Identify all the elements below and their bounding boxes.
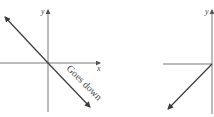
left-line: [5, 17, 48, 63]
left-y-label: y: [40, 7, 45, 16]
right-line: [168, 64, 212, 109]
right-y-label: y: [204, 7, 209, 16]
right-graph: y: [163, 7, 212, 114]
left-x-label: x: [96, 64, 101, 73]
left-graph: y x Goes down: [0, 7, 104, 112]
diagram-canvas: y x Goes down y: [0, 0, 214, 117]
